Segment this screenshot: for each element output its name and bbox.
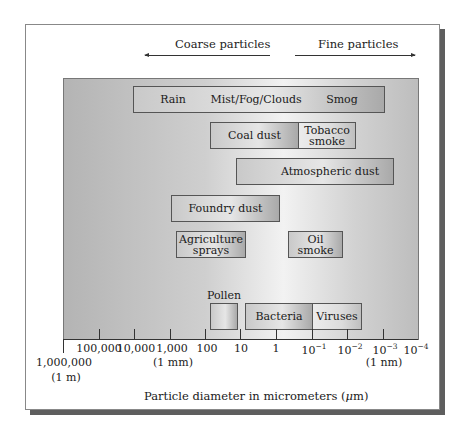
x-axis-title-mu: μ <box>346 389 353 403</box>
tick-label-1e-4: 10−4 <box>403 342 428 357</box>
label-coal-dust: Coal dust <box>228 130 281 141</box>
tick-label-1e-2: 10−2 <box>337 342 362 357</box>
x-axis-line <box>63 339 418 340</box>
tick-0.01 <box>347 329 348 339</box>
bar-atmospheric-dust: Atmospheric dust <box>236 158 394 185</box>
label-viruses: Viruses <box>316 311 357 322</box>
tick-0.001 <box>383 329 384 339</box>
label-foundry-dust: Foundry dust <box>188 203 262 214</box>
tick-10000 <box>134 329 135 339</box>
label-pollen: Pollen <box>207 289 241 302</box>
label-agriculture-1: Agriculture <box>179 234 243 245</box>
label-atmospheric-dust: Atmospheric dust <box>281 166 379 177</box>
tick-100 <box>205 329 206 339</box>
tick-base: 10 <box>372 344 386 357</box>
tick-1000 <box>170 329 171 339</box>
x-axis-title-pre: Particle diameter in micrometers ( <box>144 389 346 403</box>
tick-label-1e-3: 10−3 <box>372 342 397 357</box>
label-oil-2: smoke <box>298 245 334 256</box>
tick-1 <box>276 329 277 339</box>
tick-10 <box>240 329 241 339</box>
x-axis-left-tick <box>63 339 64 353</box>
tick-exp: −4 <box>417 342 428 351</box>
label-tobacco-2: smoke <box>309 136 345 147</box>
tick-exp: −1 <box>315 342 326 351</box>
bar-tobacco-smoke: Tobacco smoke <box>298 122 356 149</box>
bar-viruses: Viruses <box>312 303 362 330</box>
label-agriculture-2: sprays <box>193 245 229 256</box>
label-bacteria: Bacteria <box>255 311 302 322</box>
tick-label-1mm: (1 mm) <box>153 356 193 369</box>
tick-base: 10 <box>301 344 315 357</box>
label-oil-1: Oil <box>307 234 323 245</box>
tick-label-10: 10 <box>234 342 248 355</box>
label-mist: Mist/Fog/Clouds <box>210 94 301 105</box>
tick-label-100: 100 <box>197 342 218 355</box>
tick-label-10000: 10,000 <box>117 342 156 355</box>
tick-exp: −2 <box>351 342 362 351</box>
x-axis-title: Particle diameter in micrometers (μm) <box>144 389 368 403</box>
tick-label-1e-1: 10−1 <box>301 342 326 357</box>
label-smog: Smog <box>326 94 358 105</box>
label-rain: Rain <box>160 94 186 105</box>
tick-label-1nm: (1 nm) <box>366 356 403 369</box>
fine-arrow-icon <box>295 55 415 56</box>
tick-label-100000: 100,000 <box>76 342 122 355</box>
bar-agriculture-sprays: Agriculture sprays <box>176 231 246 258</box>
bar-rain-mist-smog: Rain Mist/Fog/Clouds Smog <box>133 86 385 113</box>
bar-bacteria: Bacteria <box>245 303 313 330</box>
tick-100000 <box>99 329 100 339</box>
tick-exp: −3 <box>386 342 397 351</box>
tick-label-1: 1 <box>273 342 280 355</box>
x-axis-title-post: m) <box>353 389 368 403</box>
bar-oil-smoke: Oil smoke <box>288 231 343 258</box>
tick-0.1 <box>312 329 313 339</box>
tick-label-1m: (1 m) <box>51 371 81 384</box>
bar-foundry-dust: Foundry dust <box>171 195 280 222</box>
fine-particles-label: Fine particles <box>318 37 398 51</box>
tick-label-1000000: 1,000,000 <box>36 356 92 369</box>
bar-coal-dust: Coal dust <box>210 122 299 149</box>
label-tobacco-1: Tobacco <box>304 125 350 136</box>
tick-base: 10 <box>337 344 351 357</box>
coarse-particles-label: Coarse particles <box>175 37 270 51</box>
tick-base: 10 <box>403 344 417 357</box>
bar-pollen <box>210 303 238 330</box>
tick-label-1000: 1,000 <box>156 342 188 355</box>
coarse-arrow-icon <box>145 55 270 56</box>
